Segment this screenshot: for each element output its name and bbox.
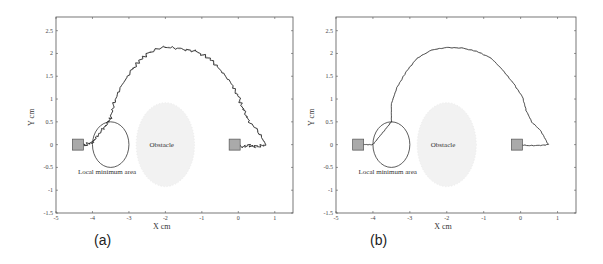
local-minimum-label: Local minimum area bbox=[78, 168, 137, 176]
obstacle-label: Obstacle bbox=[431, 141, 456, 149]
x-axis-label: X cm bbox=[434, 222, 452, 231]
x-tick-label: -2 bbox=[163, 215, 168, 221]
y-axis-label: Y cm bbox=[27, 108, 36, 126]
x-tick-label: 1 bbox=[556, 215, 559, 221]
local-minimum-ellipse bbox=[373, 122, 410, 168]
y-tick-label: 1.5 bbox=[46, 73, 54, 79]
panel-a: -5-4-3-2-101-1.5-1-0.500.511.522.5X cmY … bbox=[0, 0, 300, 264]
x-tick-label: -3 bbox=[126, 215, 131, 221]
local-minimum-ellipse bbox=[92, 122, 128, 168]
panel-b-label: (b) bbox=[370, 232, 387, 248]
y-tick-label: -0.5 bbox=[324, 164, 334, 170]
panel-a-label: (a) bbox=[94, 232, 111, 248]
chart-b: -5-4-3-2-101-1.5-1-0.500.511.522.5X cmY … bbox=[280, 0, 600, 264]
y-axis-label: Y cm bbox=[307, 108, 316, 126]
x-tick-label: -4 bbox=[90, 215, 95, 221]
y-tick-label: -1 bbox=[328, 187, 333, 193]
y-tick-label: 0.5 bbox=[326, 119, 334, 125]
y-tick-label: 1.5 bbox=[326, 73, 334, 79]
y-tick-label: -1 bbox=[48, 187, 53, 193]
x-tick-label: 0 bbox=[237, 215, 240, 221]
x-tick-label: -3 bbox=[407, 215, 412, 221]
y-tick-label: -0.5 bbox=[44, 164, 54, 170]
y-tick-label: 1 bbox=[50, 96, 53, 102]
y-tick-label: 1 bbox=[330, 96, 333, 102]
y-tick-label: -1.5 bbox=[324, 210, 334, 216]
x-tick-label: 1 bbox=[273, 215, 276, 221]
goal-marker bbox=[72, 139, 83, 150]
goal-marker bbox=[353, 139, 364, 150]
x-tick-label: -5 bbox=[334, 215, 339, 221]
x-tick-label: -2 bbox=[444, 215, 449, 221]
y-tick-label: 2 bbox=[50, 50, 53, 56]
x-tick-label: 0 bbox=[519, 215, 522, 221]
panel-b: -5-4-3-2-101-1.5-1-0.500.511.522.5X cmY … bbox=[280, 0, 580, 264]
x-tick-label: -5 bbox=[54, 215, 59, 221]
chart-a: -5-4-3-2-101-1.5-1-0.500.511.522.5X cmY … bbox=[0, 0, 300, 264]
x-axis-label: X cm bbox=[153, 222, 171, 231]
y-tick-label: 2 bbox=[330, 50, 333, 56]
y-tick-label: 2.5 bbox=[46, 28, 54, 34]
y-tick-label: 0 bbox=[50, 142, 53, 148]
x-tick-label: -4 bbox=[370, 215, 375, 221]
local-minimum-label: Local minimum area bbox=[359, 168, 418, 176]
y-tick-label: 0.5 bbox=[46, 119, 54, 125]
y-tick-label: 0 bbox=[330, 142, 333, 148]
obstacle-label: Obstacle bbox=[149, 141, 174, 149]
x-tick-label: -1 bbox=[199, 215, 204, 221]
start-marker bbox=[511, 139, 522, 150]
y-tick-label: -1.5 bbox=[44, 210, 54, 216]
x-tick-label: -1 bbox=[481, 215, 486, 221]
start-marker bbox=[229, 139, 240, 150]
y-tick-label: 2.5 bbox=[326, 28, 334, 34]
